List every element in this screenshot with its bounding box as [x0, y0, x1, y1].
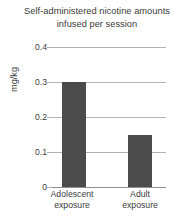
ytick-mark-0.3: [47, 82, 52, 83]
ytick-label-0.3: 0.3: [35, 78, 47, 87]
bar-adult-exposure: [128, 135, 152, 188]
xtick-label-adult-line-2: exposure: [100, 200, 180, 211]
ytick-label-0.4: 0.4: [35, 43, 47, 52]
bar-chart-figure: Self-administered nicotine amounts infus…: [0, 0, 194, 223]
chart-title-line-2: infused per session: [4, 18, 190, 31]
ytick-mark-0.4: [47, 47, 52, 48]
y-axis-title: mg/kg: [9, 67, 19, 92]
ytick-label-0.1: 0.1: [35, 148, 47, 157]
gridline-0: [52, 187, 166, 188]
xtick-label-adult-line-1: Adult: [100, 189, 180, 200]
ytick-mark-0.2: [47, 117, 52, 118]
xtick-label-adult-exposure: Adult exposure: [100, 189, 180, 211]
chart-title-line-1: Self-administered nicotine amounts: [4, 5, 190, 18]
bar-adolescent-exposure: [62, 82, 86, 187]
ytick-mark-0: [47, 187, 52, 188]
plot-area: 0.4 0.3 0.2 0.1 0: [52, 47, 166, 187]
gridline-0.4: [52, 47, 166, 48]
chart-title: Self-administered nicotine amounts infus…: [4, 5, 190, 30]
ytick-mark-0.1: [47, 152, 52, 153]
ytick-label-0.2: 0.2: [35, 113, 47, 122]
